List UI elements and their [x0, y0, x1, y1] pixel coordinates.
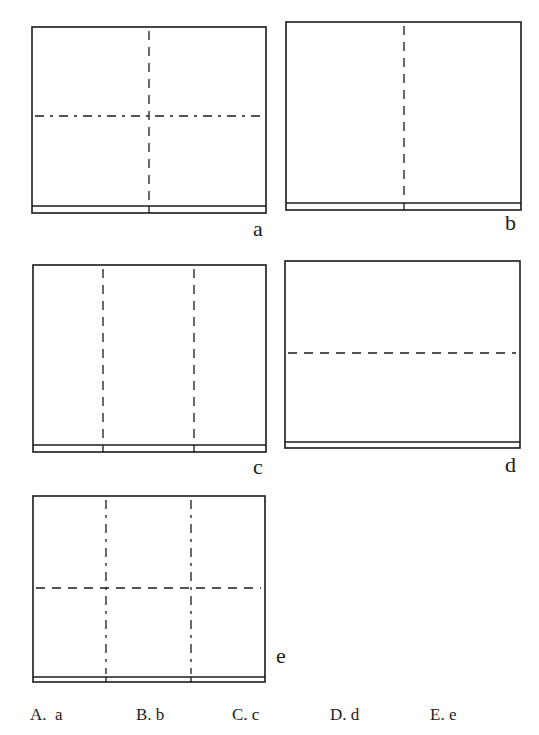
panel-outline — [33, 496, 265, 682]
panel-c — [33, 265, 266, 452]
panel-label-c: c — [253, 456, 263, 478]
panel-d — [285, 261, 520, 448]
panel-b — [286, 22, 521, 210]
panel-e — [33, 496, 265, 682]
option-a[interactable]: A. a — [30, 706, 63, 723]
diagram-canvas — [0, 0, 539, 735]
panel-outline — [285, 261, 520, 448]
option-c[interactable]: C. c — [232, 706, 259, 723]
panel-label-b: b — [505, 212, 516, 234]
panel-label-e: e — [276, 645, 286, 667]
panel-outline — [33, 265, 266, 452]
option-e[interactable]: E. e — [430, 706, 456, 723]
panel-a — [32, 27, 266, 213]
panel-label-a: a — [253, 218, 263, 240]
option-d[interactable]: D. d — [330, 706, 359, 723]
option-b[interactable]: B. b — [136, 706, 164, 723]
panel-label-d: d — [505, 454, 516, 476]
